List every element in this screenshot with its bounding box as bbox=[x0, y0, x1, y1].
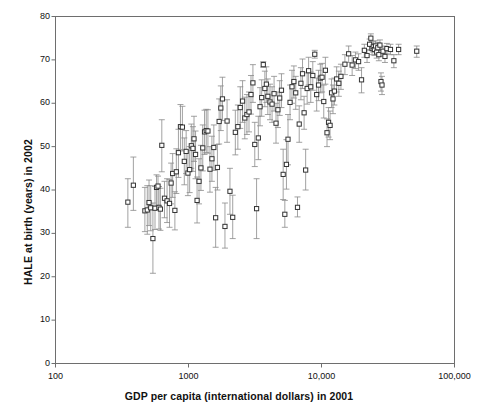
plot-border bbox=[56, 17, 455, 364]
data-point-marker bbox=[158, 207, 162, 211]
data-point-marker bbox=[328, 123, 332, 127]
data-point-marker bbox=[195, 198, 199, 202]
data-point-marker bbox=[201, 146, 205, 150]
data-point-marker bbox=[228, 189, 232, 193]
data-point-marker bbox=[206, 129, 210, 133]
data-point-marker bbox=[397, 47, 401, 51]
y-axis-title: HALE at birth (years) in 2002 bbox=[22, 139, 34, 285]
data-point-marker bbox=[294, 91, 298, 95]
data-point-marker bbox=[174, 170, 178, 174]
data-point-marker bbox=[315, 92, 319, 96]
data-point-marker bbox=[240, 99, 244, 103]
data-point-marker bbox=[283, 212, 287, 216]
data-point-marker bbox=[260, 96, 264, 100]
data-point-marker bbox=[210, 157, 214, 161]
data-point-marker bbox=[347, 52, 351, 56]
scatter-chart-figure: 01020304050607080100100010,000100,000 GD… bbox=[0, 0, 478, 415]
y-tick-label: 0 bbox=[24, 359, 50, 368]
data-point-marker bbox=[176, 151, 180, 155]
data-point-marker bbox=[191, 146, 195, 150]
data-point-marker bbox=[378, 43, 382, 47]
data-point-marker bbox=[331, 97, 335, 101]
data-point-marker bbox=[251, 81, 255, 85]
x-tick-label: 100,000 bbox=[420, 372, 478, 381]
data-point-marker bbox=[284, 162, 288, 166]
data-point-marker bbox=[309, 85, 313, 89]
data-point-marker bbox=[388, 47, 392, 51]
data-point-marker bbox=[167, 201, 171, 205]
data-point-marker bbox=[169, 181, 173, 185]
data-point-marker bbox=[359, 78, 363, 82]
data-point-marker bbox=[258, 105, 262, 109]
data-point-marker bbox=[184, 149, 188, 153]
data-point-marker bbox=[392, 59, 396, 63]
data-point-marker bbox=[304, 168, 308, 172]
data-point-marker bbox=[192, 137, 196, 141]
data-point-marker bbox=[270, 102, 274, 106]
data-point-marker bbox=[215, 165, 219, 169]
data-point-marker bbox=[286, 137, 290, 141]
data-point-marker bbox=[276, 108, 280, 112]
data-point-marker bbox=[182, 159, 186, 163]
data-point-marker bbox=[247, 110, 251, 114]
data-point-marker bbox=[377, 53, 381, 57]
data-point-marker bbox=[264, 82, 268, 86]
data-point-marker bbox=[238, 105, 242, 109]
data-point-marker bbox=[415, 49, 419, 53]
data-point-marker bbox=[335, 77, 339, 81]
data-point-marker bbox=[362, 48, 366, 52]
data-point-marker bbox=[231, 215, 235, 219]
data-point-marker bbox=[297, 122, 301, 126]
data-point-marker bbox=[322, 99, 326, 103]
data-point-marker bbox=[266, 94, 270, 98]
data-point-marker bbox=[199, 166, 203, 170]
data-point-marker bbox=[365, 53, 369, 57]
data-point-marker bbox=[180, 125, 184, 129]
plot-frame bbox=[56, 17, 455, 364]
data-point-marker bbox=[188, 168, 192, 172]
data-point-marker bbox=[197, 179, 201, 183]
data-point-marker bbox=[214, 216, 218, 220]
data-point-marker bbox=[316, 83, 320, 87]
data-point-marker bbox=[288, 100, 292, 104]
error-bars-layer bbox=[125, 34, 420, 273]
data-point-marker bbox=[383, 54, 387, 58]
data-point-marker bbox=[350, 63, 354, 67]
data-point-marker bbox=[147, 200, 151, 204]
data-point-marker bbox=[219, 106, 223, 110]
plot-canvas bbox=[0, 0, 478, 415]
data-point-marker bbox=[290, 85, 294, 89]
data-point-marker bbox=[208, 167, 212, 171]
data-point-marker bbox=[325, 131, 329, 135]
data-point-marker bbox=[332, 89, 336, 93]
data-point-marker bbox=[313, 52, 317, 56]
x-axis-ticks bbox=[56, 364, 455, 368]
x-tick-label: 100 bbox=[21, 372, 91, 381]
data-point-marker bbox=[339, 74, 343, 78]
data-point-marker bbox=[254, 207, 258, 211]
data-point-marker bbox=[343, 62, 347, 66]
data-point-marker bbox=[281, 172, 285, 176]
data-point-marker bbox=[149, 206, 153, 210]
data-point-marker bbox=[126, 200, 130, 204]
data-point-marker bbox=[380, 83, 384, 87]
data-point-marker bbox=[253, 142, 257, 146]
data-point-marker bbox=[295, 205, 299, 209]
data-point-marker bbox=[320, 75, 324, 79]
data-point-marker bbox=[356, 60, 360, 64]
data-point-marker bbox=[279, 88, 283, 92]
x-tick-label: 1000 bbox=[154, 372, 224, 381]
data-point-marker bbox=[337, 81, 341, 85]
data-point-marker bbox=[173, 208, 177, 212]
data-point-marker bbox=[236, 125, 240, 129]
data-point-marker bbox=[299, 81, 303, 85]
y-tick-label: 60 bbox=[24, 98, 50, 107]
data-point-marker bbox=[274, 121, 278, 125]
y-tick-label: 10 bbox=[24, 315, 50, 324]
y-axis-ticks bbox=[52, 17, 56, 364]
y-tick-label: 70 bbox=[24, 55, 50, 64]
data-point-marker bbox=[217, 119, 221, 123]
data-point-marker bbox=[225, 119, 229, 123]
data-point-marker bbox=[223, 224, 227, 228]
data-point-marker bbox=[302, 111, 306, 115]
